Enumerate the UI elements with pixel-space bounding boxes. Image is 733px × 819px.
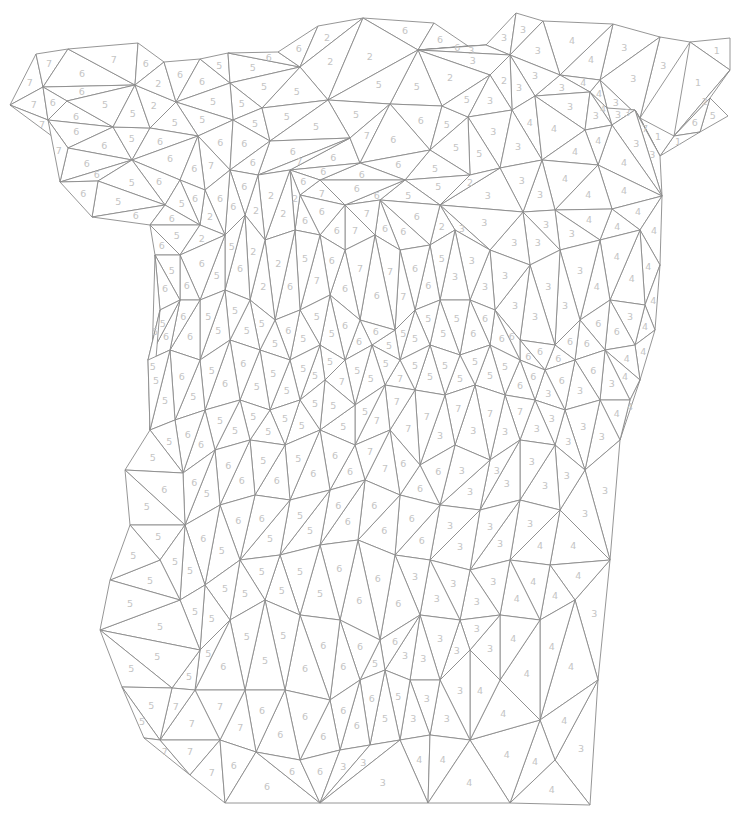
region-number-label: 3 — [532, 311, 538, 322]
region-number-label: 2 — [199, 233, 205, 244]
region-number-label: 2 — [275, 258, 281, 269]
region-number-label: 6 — [330, 152, 336, 163]
region-number-label: 3 — [459, 465, 465, 476]
region-number-label: 6 — [185, 429, 191, 440]
region-number-label: 6 — [395, 598, 401, 609]
region-number-label: 3 — [457, 541, 463, 552]
region-number-label: 6 — [296, 43, 302, 54]
region-number-label: 5 — [502, 361, 508, 372]
region-number-label: 5 — [169, 265, 175, 276]
region-number-label: 5 — [330, 400, 336, 411]
region-number-label: 7 — [352, 225, 358, 236]
region-number-label: 6 — [340, 661, 346, 672]
region-number-label: 5 — [187, 565, 193, 576]
region-number-label: 5 — [179, 198, 185, 209]
region-number-label: 4 — [624, 353, 630, 364]
region-number-label: 4 — [596, 88, 602, 99]
region-number-label: 7 — [314, 275, 320, 286]
region-number-label: 6 — [390, 134, 396, 145]
region-number-label: 5 — [284, 111, 290, 122]
region-number-label: 6 — [259, 513, 265, 524]
region-number-label: 5 — [153, 375, 159, 386]
region-number-label: 7 — [487, 408, 493, 419]
region-number-label: 5 — [372, 658, 378, 669]
region-number-label: 5 — [442, 360, 448, 371]
region-number-label: 5 — [280, 630, 286, 641]
region-number-label: 3 — [545, 388, 551, 399]
region-number-label: 3 — [420, 653, 426, 664]
region-number-label: 1 — [675, 136, 681, 147]
region-number-label: 6 — [317, 766, 323, 777]
region-number-label: 5 — [327, 356, 333, 367]
region-number-label: 6 — [101, 140, 107, 151]
region-number-label: 5 — [150, 361, 156, 372]
region-number-label: 4 — [588, 54, 594, 65]
region-number-label: 6 — [200, 533, 206, 544]
region-number-label: 4 — [504, 749, 510, 760]
region-number-label: 6 — [402, 25, 408, 36]
region-number-label: 6 — [335, 500, 341, 511]
region-number-label: 6 — [162, 283, 168, 294]
region-number-label: 4 — [629, 273, 635, 284]
region-number-label: 6 — [167, 153, 173, 164]
region-number-label: 7 — [189, 718, 195, 729]
region-number-label: 5 — [129, 133, 135, 144]
region-number-label: 4 — [621, 157, 627, 168]
region-number-label: 5 — [300, 333, 306, 344]
region-number-label: 3 — [537, 189, 543, 200]
region-number-label: 6 — [320, 166, 326, 177]
region-number-label: 4 — [552, 590, 558, 601]
region-number-label: 3 — [490, 126, 496, 137]
region-number-label: 5 — [244, 325, 250, 336]
region-number-label: 7 — [209, 767, 215, 778]
region-number-label: 2 — [439, 221, 445, 232]
region-number-label: 6 — [169, 213, 175, 224]
region-number-label: 3 — [444, 713, 450, 724]
region-number-label: 3 — [437, 430, 443, 441]
region-number-label: 3 — [627, 311, 633, 322]
region-number-label: 5 — [250, 411, 256, 422]
region-number-label: 5 — [250, 62, 256, 73]
region-number-label: 5 — [453, 142, 459, 153]
region-number-label: 3 — [402, 650, 408, 661]
region-number-label: 6 — [320, 640, 326, 651]
region-number-label: 6 — [392, 636, 398, 647]
region-number-label: 3 — [535, 45, 541, 56]
region-number-label: 6 — [356, 336, 362, 347]
region-number-label: 5 — [115, 196, 121, 207]
region-number-label: 2 — [292, 193, 298, 204]
region-number-label: 7 — [162, 746, 168, 757]
region-number-label: 2 — [702, 96, 708, 107]
region-number-label: 4 — [650, 295, 656, 306]
region-number-label: 5 — [439, 253, 445, 264]
region-number-label: 7 — [387, 266, 393, 277]
region-number-label: 6 — [342, 320, 348, 331]
region-number-label: 6 — [345, 516, 351, 527]
region-number-label: 6 — [482, 313, 488, 324]
region-number-label: 4 — [500, 708, 506, 719]
region-number-label: 7 — [39, 119, 45, 130]
region-number-label: 4 — [527, 117, 533, 128]
region-number-label: 6 — [614, 326, 620, 337]
region-number-label: 2 — [447, 72, 453, 83]
region-number-label: 6 — [584, 338, 590, 349]
region-number-label: 4 — [524, 668, 530, 679]
region-number-label: 7 — [405, 423, 411, 434]
region-number-label: 5 — [317, 588, 323, 599]
region-number-label: 3 — [447, 520, 453, 531]
region-number-label: 3 — [562, 300, 568, 311]
region-number-label: 6 — [356, 595, 362, 606]
region-number-label: 7 — [364, 208, 370, 219]
region-number-label: 5 — [302, 253, 308, 264]
region-number-label: 6 — [79, 68, 85, 79]
region-number-label: 6 — [266, 52, 272, 63]
region-number-label: 6 — [159, 240, 165, 251]
region-number-label: 3 — [624, 107, 630, 118]
region-number-label: 4 — [477, 685, 483, 696]
region-number-label: 5 — [214, 270, 220, 281]
region-number-label: 5 — [186, 671, 192, 682]
region-number-label: 7 — [517, 406, 523, 417]
region-number-label: 6 — [530, 371, 536, 382]
region-number-label: 6 — [230, 201, 236, 212]
region-number-label: 5 — [270, 368, 276, 379]
